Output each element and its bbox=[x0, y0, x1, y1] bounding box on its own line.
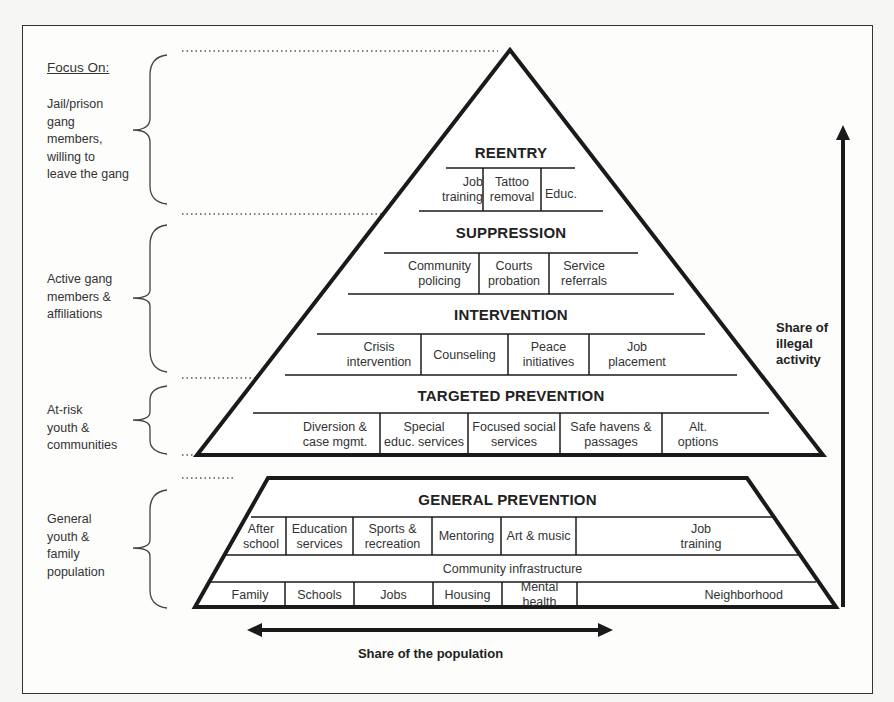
program-cell: Safe havens &passages bbox=[560, 414, 662, 455]
tier-general-title: GENERAL PREVENTION bbox=[268, 485, 747, 513]
tier-targeted-title: TARGETED PREVENTION bbox=[285, 381, 737, 409]
share-illegal-activity-arrow bbox=[836, 125, 850, 607]
program-cell: Courtsprobation bbox=[479, 254, 549, 294]
program-cell: Art & music bbox=[501, 518, 576, 555]
program-cell: Servicereferrals bbox=[549, 254, 619, 294]
program-cell: Mentoring bbox=[432, 518, 501, 555]
horizontal-axis-label: Share of the population bbox=[248, 646, 613, 662]
tier-intervention-title: INTERVENTION bbox=[348, 300, 674, 328]
program-cell: Jobtraining bbox=[576, 518, 776, 555]
program-cell: Specialeduc. services bbox=[380, 414, 468, 455]
program-cell: Tattooremoval bbox=[483, 169, 541, 211]
group-reentry-label: Jail/prisongangmembers,willing toleave t… bbox=[47, 96, 129, 184]
focus-heading: Focus On: bbox=[47, 60, 109, 75]
infrastructure-cell: Housing bbox=[433, 583, 502, 607]
vertical-axis-label: Share ofillegalactivity bbox=[776, 320, 828, 368]
tier-reentry-title: REENTRY bbox=[446, 140, 576, 164]
community-infrastructure-label: Community infrastructure bbox=[225, 556, 800, 582]
infrastructure-cell: Schools bbox=[285, 583, 354, 607]
program-cell: Peaceinitiatives bbox=[508, 335, 589, 375]
group-general-label: Generalyouth &familypopulation bbox=[47, 511, 105, 581]
program-cell: Focused socialservices bbox=[468, 414, 560, 455]
group-active-gang-label: Active gangmembers &affiliations bbox=[47, 271, 112, 324]
program-cell: Alt.options bbox=[662, 414, 734, 455]
infrastructure-cell: Jobs bbox=[354, 583, 433, 607]
program-cell: Jobplacement bbox=[589, 335, 685, 375]
share-population-arrow bbox=[247, 623, 613, 637]
program-cell: Counseling bbox=[421, 335, 508, 375]
infrastructure-cell: Neighborhood bbox=[577, 583, 813, 607]
program-cell: Educationservices bbox=[286, 518, 353, 555]
program-cell: Diversion &case mgmt. bbox=[290, 414, 380, 455]
infrastructure-cell: Family bbox=[215, 583, 285, 607]
program-cell: Sports &recreation bbox=[353, 518, 432, 555]
program-cell: Jobtraining bbox=[452, 169, 483, 211]
program-cell: Communitypolicing bbox=[400, 254, 479, 294]
infrastructure-cell: Mental health bbox=[502, 583, 577, 607]
program-cell: Educ. bbox=[541, 178, 581, 211]
tier-suppression-title: SUPPRESSION bbox=[419, 218, 603, 246]
legend-braces bbox=[133, 55, 167, 608]
group-at-risk-label: At-riskyouth &communities bbox=[47, 402, 117, 455]
program-cell: Crisisintervention bbox=[337, 335, 421, 375]
program-cell: Afterschool bbox=[236, 518, 286, 555]
